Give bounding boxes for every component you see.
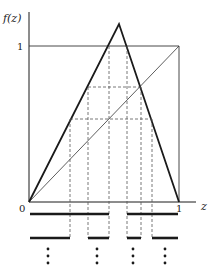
- horizontal-dashed-lines: [70, 87, 152, 119]
- origin-label: 0: [19, 203, 25, 214]
- tent-map-curve: [29, 24, 179, 202]
- tent-map-diagram: f(z) 1 0 1 z: [0, 0, 217, 276]
- x-axis-label: z: [200, 200, 207, 213]
- x-one-label: 1: [176, 203, 182, 214]
- y-one-label: 1: [17, 41, 23, 52]
- ellipsis-dots: [47, 248, 167, 265]
- vertical-dashed-lines: [70, 46, 152, 238]
- identity-diagonal: [29, 46, 179, 202]
- y-axis-label: f(z): [2, 12, 21, 25]
